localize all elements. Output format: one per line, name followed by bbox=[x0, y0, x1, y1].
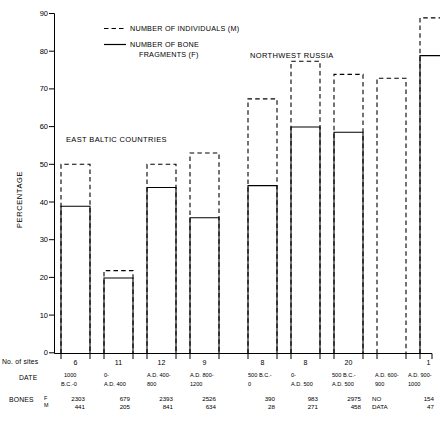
bar-m-4 bbox=[190, 153, 219, 354]
date-value-7-line2: A.D. 500 bbox=[332, 380, 354, 388]
date-value-2-line2: A.D. 400 bbox=[104, 380, 126, 388]
bones-m-8: DATA bbox=[372, 403, 404, 412]
sites-value-6: 8 bbox=[291, 359, 320, 366]
bar-f-2 bbox=[104, 278, 133, 354]
sites-value-1: 6 bbox=[61, 359, 90, 366]
date-value-3-line2: 800 bbox=[147, 380, 156, 388]
date-value-6-line1: 0- bbox=[291, 371, 296, 379]
date-value-2-line1: 0- bbox=[104, 371, 109, 379]
sites-value-7: 20 bbox=[334, 359, 363, 366]
bar-m-7 bbox=[334, 74, 363, 353]
bars-group bbox=[61, 18, 440, 354]
date-value-5-line1: 500 B.C.- bbox=[248, 371, 272, 379]
bar-m-1 bbox=[61, 164, 90, 353]
date-value-1-line2: B.C.-0 bbox=[61, 380, 77, 388]
bones-m-5: 28 bbox=[243, 403, 275, 412]
date-value-3-line1: A.D. 400- bbox=[147, 371, 171, 379]
sites-value-2: 11 bbox=[104, 359, 133, 366]
bones-m-1: 441 bbox=[53, 403, 85, 412]
bar-f-4 bbox=[190, 218, 219, 354]
chart-root: PERCENTAGE 90 80 70 60 50 40 30 20 10 0 … bbox=[0, 0, 440, 425]
sites-value-3: 12 bbox=[147, 359, 176, 366]
bar-m-5 bbox=[248, 99, 277, 354]
row-label-m: M bbox=[44, 402, 49, 410]
date-value-6-line2: A.D. 500 bbox=[291, 380, 313, 388]
bar-f-7 bbox=[334, 132, 363, 353]
date-value-9-line1: A.D. 900- bbox=[408, 371, 432, 379]
bar-m-2 bbox=[104, 271, 133, 354]
bar-f-3 bbox=[147, 188, 176, 354]
bar-f-9 bbox=[420, 56, 440, 354]
bones-m-3: 841 bbox=[141, 403, 173, 412]
row-label-date: DATE bbox=[19, 375, 37, 382]
bar-f-1 bbox=[61, 206, 90, 353]
sites-value-4: 9 bbox=[190, 359, 219, 366]
bar-f-6 bbox=[291, 127, 320, 354]
bones-m-4: 634 bbox=[184, 403, 216, 412]
bones-m-2: 205 bbox=[98, 403, 130, 412]
bar-m-3 bbox=[147, 164, 176, 353]
date-value-1-line1: 1000 bbox=[64, 371, 76, 379]
bar-m-6 bbox=[291, 61, 320, 353]
bones-m-9: 47 bbox=[408, 403, 434, 412]
bones-m-6: 271 bbox=[286, 403, 318, 412]
date-value-4-line1: A.D. 800- bbox=[190, 371, 214, 379]
bar-f-5 bbox=[248, 186, 277, 354]
bar-m-8 bbox=[377, 78, 406, 353]
date-value-5-line2: 0 bbox=[248, 380, 251, 388]
date-value-8-line2: 900 bbox=[375, 380, 384, 388]
bar-m-9 bbox=[420, 18, 440, 354]
date-value-7-line1: 500 B.C.- bbox=[332, 371, 356, 379]
row-label-bones: BONES bbox=[9, 397, 34, 404]
date-value-4-line2: 1200 bbox=[190, 380, 202, 388]
date-value-9-line2: 1000 bbox=[408, 380, 420, 388]
sites-value-9: 1 bbox=[414, 359, 440, 366]
y-tick-marks bbox=[49, 14, 55, 353]
sites-value-5: 8 bbox=[248, 359, 277, 366]
bones-m-7: 458 bbox=[329, 403, 361, 412]
date-value-8-line1: A.D. 600- bbox=[375, 371, 399, 379]
row-label-sites: No. of sites bbox=[2, 359, 38, 366]
